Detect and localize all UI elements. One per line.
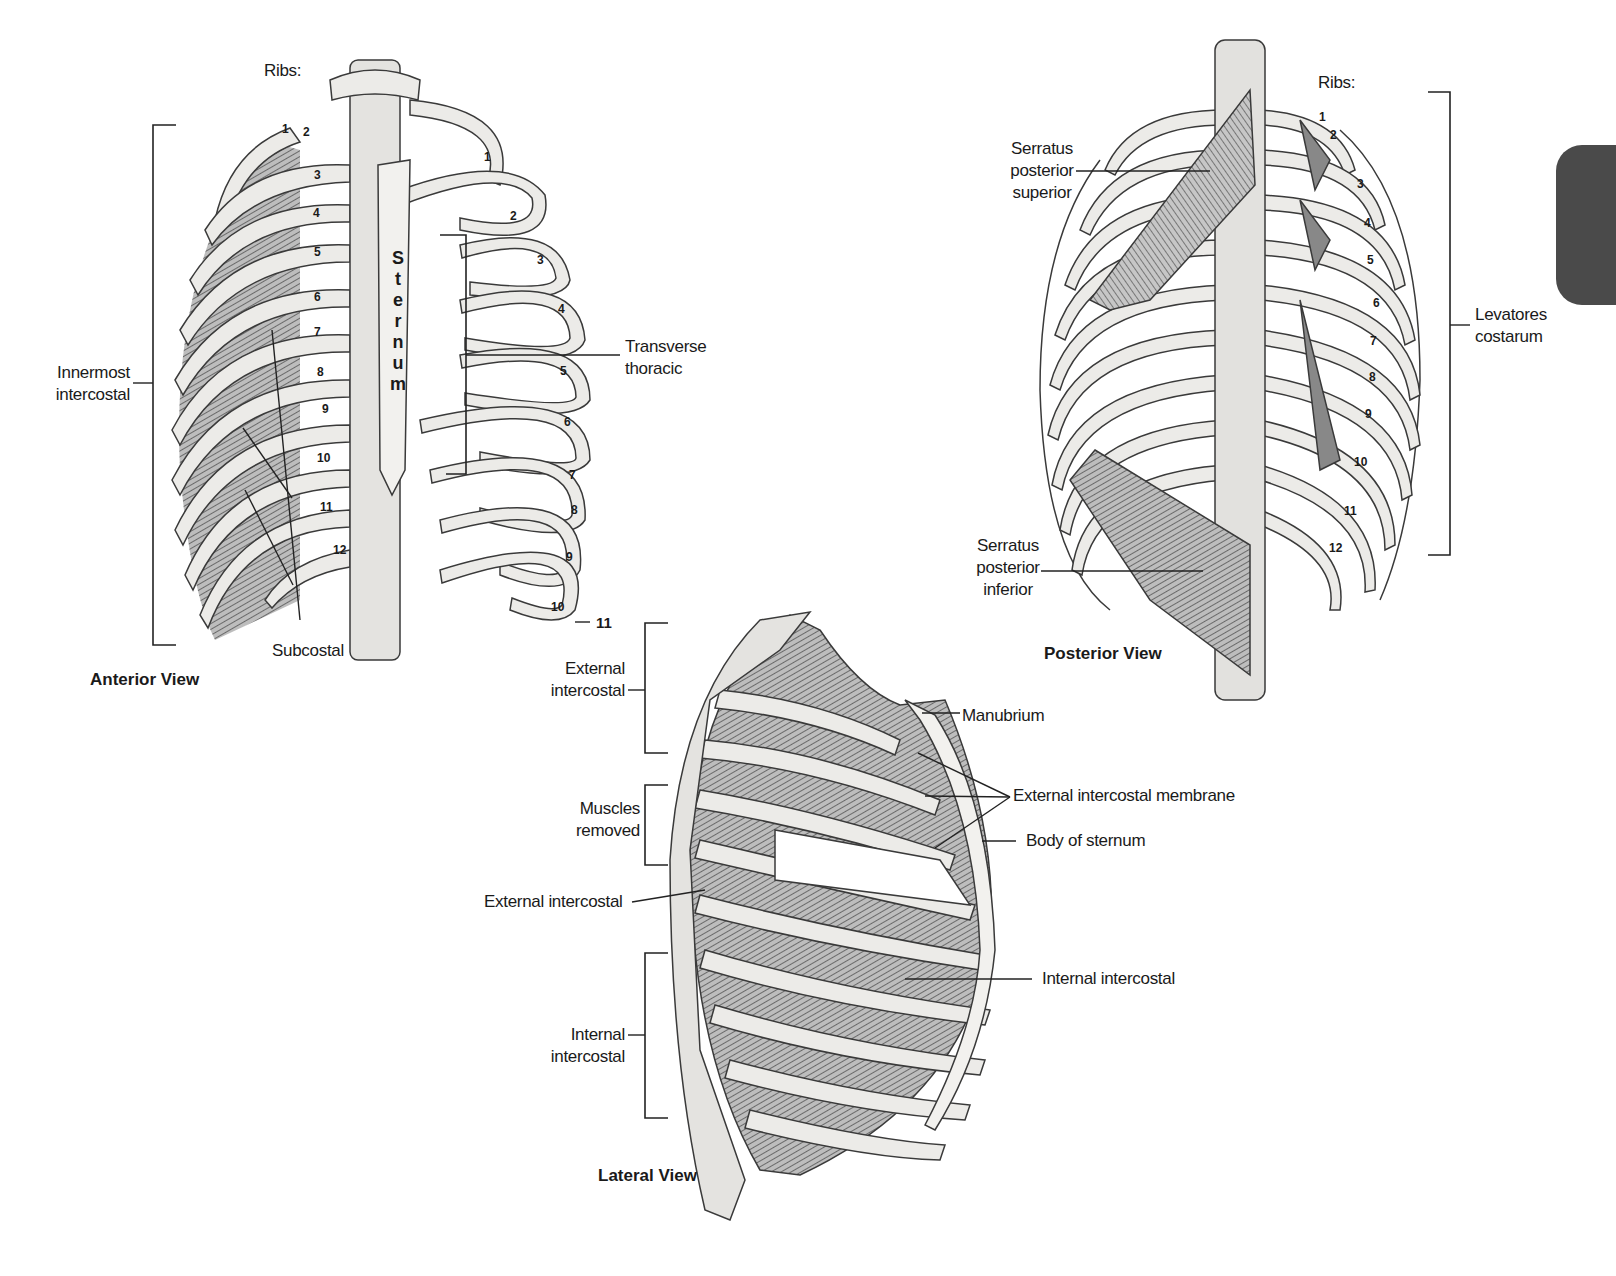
anterior-view-title: Anterior View: [90, 670, 199, 690]
rib-number: 10: [551, 600, 564, 614]
rib-number: 7: [1370, 334, 1377, 348]
manubrium-label: Manubrium: [962, 705, 1044, 727]
sternum-label: Sternum: [390, 248, 406, 395]
rib-number: 10: [317, 451, 330, 465]
lateral-view-title: Lateral View: [598, 1166, 697, 1186]
rib-number: 7: [569, 468, 576, 482]
rib-number: 1: [282, 122, 289, 136]
rib-number: 12: [1329, 541, 1342, 555]
section-tab: [1556, 145, 1616, 305]
levatores-costarum-label: Levatores costarum: [1475, 304, 1547, 348]
external-intercostal-label: External intercostal: [484, 891, 623, 913]
rib-number: 11: [596, 614, 612, 631]
rib-number: 8: [317, 365, 324, 379]
muscles-removed-label: Muscles removed: [550, 798, 640, 842]
rib-number: 9: [1365, 407, 1372, 421]
anterior-ribcage: [133, 60, 620, 660]
body-of-sternum-label: Body of sternum: [1026, 830, 1145, 852]
rib-number: 3: [1357, 177, 1364, 191]
innermost-intercostal-label: Innermost intercostal: [38, 362, 130, 406]
lateral-ribcage: [628, 612, 1032, 1220]
rib-number: 4: [313, 206, 320, 220]
rib-number: 3: [537, 253, 544, 267]
external-intercostal-membrane-label: External intercostal membrane: [1013, 785, 1235, 807]
rib-number: 5: [314, 245, 321, 259]
rib-number: 8: [571, 503, 578, 517]
rib-number: 11: [1344, 504, 1357, 518]
serratus-posterior-superior-label: Serratus posterior superior: [1002, 138, 1082, 204]
transverse-thoracic-label: Transverse thoracic: [625, 336, 706, 380]
posterior-view-title: Posterior View: [1044, 644, 1162, 664]
external-intercostal-bracket-label: External intercostal: [530, 658, 625, 702]
rib-number: 6: [564, 415, 571, 429]
rib-number: 12: [333, 543, 346, 557]
posterior-ribs-heading: Ribs:: [1318, 72, 1355, 94]
rib-number: 2: [1330, 128, 1337, 142]
subcostal-label: Subcostal: [272, 640, 344, 662]
rib-number: 11: [320, 500, 333, 514]
posterior-ribcage: [1040, 40, 1470, 700]
rib-number: 9: [322, 402, 329, 416]
internal-intercostal-bracket-label: Internal intercostal: [530, 1024, 625, 1068]
rib-number: 9: [566, 550, 573, 564]
rib-number: 7: [314, 325, 321, 339]
rib-number: 10: [1354, 455, 1367, 469]
rib-number: 8: [1369, 370, 1376, 384]
rib-number: 4: [558, 302, 565, 316]
serratus-posterior-inferior-label: Serratus posterior inferior: [968, 535, 1048, 601]
rib-number: 5: [560, 364, 567, 378]
rib-number: 5: [1367, 253, 1374, 267]
rib-number: 2: [510, 209, 517, 223]
rib-number: 1: [1319, 110, 1326, 124]
rib-number: 3: [314, 168, 321, 182]
rib-number: 4: [1364, 216, 1371, 230]
internal-intercostal-label: Internal intercostal: [1042, 968, 1175, 990]
rib-number: 6: [314, 290, 321, 304]
rib-number: 6: [1373, 296, 1380, 310]
rib-number: 1: [484, 150, 491, 164]
rib-number: 2: [303, 125, 310, 139]
anterior-ribs-heading: Ribs:: [264, 60, 301, 82]
